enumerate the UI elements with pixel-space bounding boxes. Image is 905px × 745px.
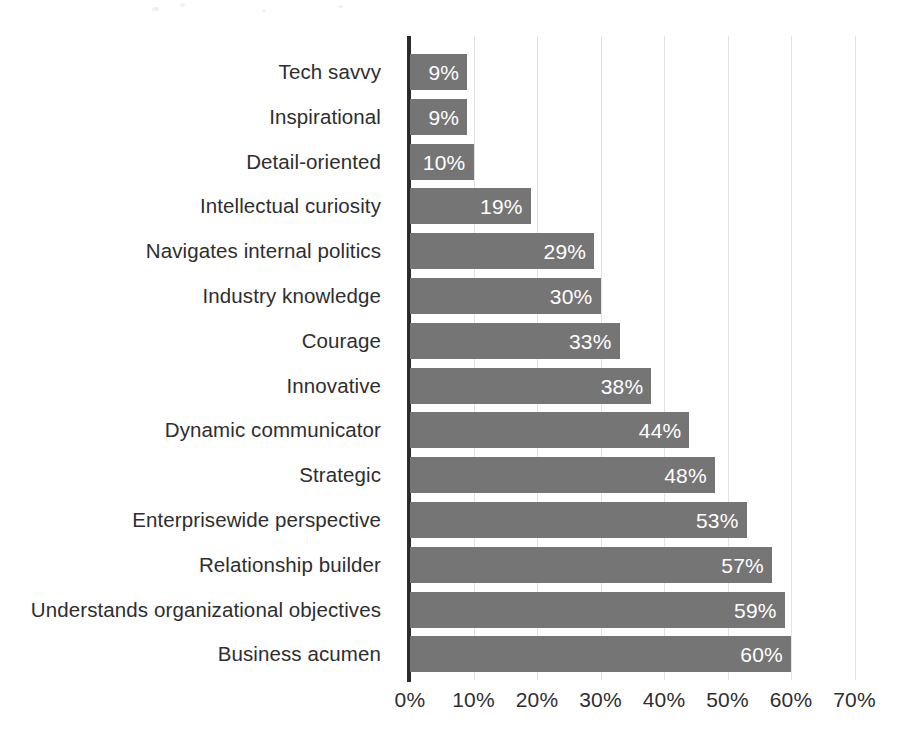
bar: 9% (410, 99, 467, 135)
bar-row: Courage33% (0, 323, 905, 359)
x-tick-label: 30% (579, 688, 622, 711)
x-tick-label: 40% (643, 688, 686, 711)
bar-value-label: 33% (569, 330, 612, 351)
bar-value-label: 60% (740, 644, 783, 665)
bar: 19% (410, 188, 531, 224)
bar-row: Dynamic communicator44% (0, 412, 905, 448)
bar-row: Strategic48% (0, 457, 905, 493)
bar-value-label: 53% (696, 510, 739, 531)
horizontal-bar-chart: Tech savvy9%Inspirational9%Detail-orient… (0, 0, 905, 745)
bar-value-label: 38% (601, 375, 644, 396)
bar: 57% (410, 547, 772, 583)
bar: 44% (410, 412, 689, 448)
category-label: Business acumen (218, 644, 381, 665)
bar: 38% (410, 368, 651, 404)
bar-value-label: 19% (480, 196, 523, 217)
bar-row: Understands organizational objectives59% (0, 592, 905, 628)
x-axis-tick-labels: 0%10%20%30%40%50%60%70% (0, 688, 905, 722)
bar-value-label: 9% (428, 106, 459, 127)
bar-value-label: 44% (639, 420, 682, 441)
bar: 9% (410, 54, 467, 90)
x-tick-label: 70% (833, 688, 876, 711)
x-tick-label: 50% (706, 688, 749, 711)
bar-row: Industry knowledge30% (0, 278, 905, 314)
bar: 29% (410, 233, 594, 269)
category-label: Inspirational (269, 107, 381, 128)
bar-row: Detail-oriented10% (0, 144, 905, 180)
bar: 33% (410, 323, 620, 359)
bar-value-label: 29% (544, 241, 587, 262)
bar-rows: Tech savvy9%Inspirational9%Detail-orient… (0, 0, 905, 745)
category-label: Relationship builder (199, 555, 381, 576)
bar-row: Relationship builder57% (0, 547, 905, 583)
category-label: Dynamic communicator (165, 420, 381, 441)
category-label: Understands organizational objectives (31, 599, 381, 620)
bar-row: Business acumen60% (0, 636, 905, 672)
bar-value-label: 9% (428, 62, 459, 83)
bar-row: Innovative38% (0, 368, 905, 404)
bar-row: Navigates internal politics29% (0, 233, 905, 269)
bar-value-label: 48% (664, 465, 707, 486)
category-label: Industry knowledge (203, 286, 381, 307)
bar-value-label: 30% (550, 286, 593, 307)
x-tick-label: 20% (516, 688, 559, 711)
bar-value-label: 10% (423, 151, 466, 172)
x-tick-label: 60% (770, 688, 813, 711)
category-label: Navigates internal politics (146, 241, 381, 262)
category-label: Intellectual curiosity (200, 196, 381, 217)
bar-value-label: 59% (734, 599, 777, 620)
bar: 59% (410, 592, 785, 628)
category-label: Courage (302, 331, 381, 352)
bar: 10% (410, 144, 474, 180)
category-label: Enterprisewide perspective (132, 510, 381, 531)
category-label: Tech savvy (279, 62, 381, 83)
bar-row: Enterprisewide perspective53% (0, 502, 905, 538)
bar-row: Inspirational9% (0, 99, 905, 135)
bar: 60% (410, 636, 791, 672)
bar-row: Tech savvy9% (0, 54, 905, 90)
x-tick-label: 0% (395, 688, 426, 711)
bar: 48% (410, 457, 715, 493)
category-label: Detail-oriented (246, 151, 381, 172)
category-label: Strategic (299, 465, 381, 486)
bar: 53% (410, 502, 747, 538)
x-tick-label: 10% (452, 688, 495, 711)
category-label: Innovative (287, 375, 381, 396)
bar-row: Intellectual curiosity19% (0, 188, 905, 224)
bar-value-label: 57% (721, 554, 764, 575)
bar: 30% (410, 278, 601, 314)
